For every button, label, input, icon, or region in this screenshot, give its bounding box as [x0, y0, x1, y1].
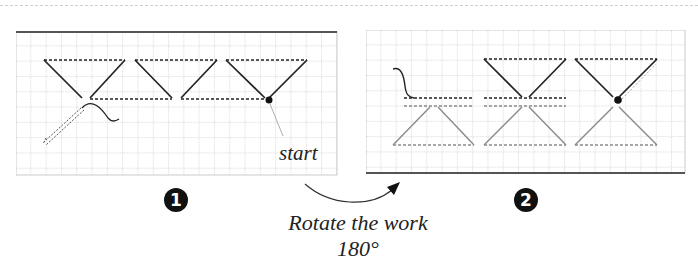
step-1-badge: 1 — [164, 188, 188, 212]
caption-line-1: Rotate the work — [268, 210, 448, 236]
panel-step-2 — [366, 30, 688, 176]
rotate-caption: Rotate the work 180° — [268, 210, 448, 261]
step-2-badge: 2 — [514, 188, 538, 212]
start-point-icon — [614, 96, 622, 104]
top-dashed-rule — [0, 5, 698, 6]
caption-line-2: 180° — [268, 236, 448, 261]
start-point-icon — [266, 97, 273, 104]
panel-step-1: start — [16, 31, 338, 177]
start-label: start — [279, 141, 318, 166]
stitch-diagram-step-2 — [366, 30, 688, 176]
